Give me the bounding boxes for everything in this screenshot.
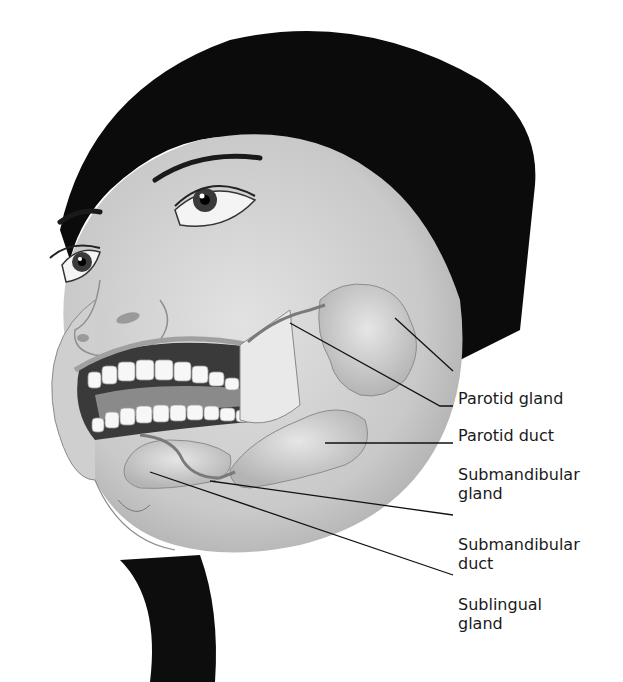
anatomy-illustration: [0, 0, 623, 682]
hair-lower: [120, 555, 216, 682]
label-parotid-gland: Parotid gland: [458, 389, 563, 408]
label-sublingual-gland: Sublingual gland: [458, 595, 542, 633]
label-submandibular-gland: Submandibular gland: [458, 465, 580, 503]
label-parotid-duct: Parotid duct: [458, 426, 554, 445]
label-submandibular-duct: Submandibular duct: [458, 535, 580, 573]
